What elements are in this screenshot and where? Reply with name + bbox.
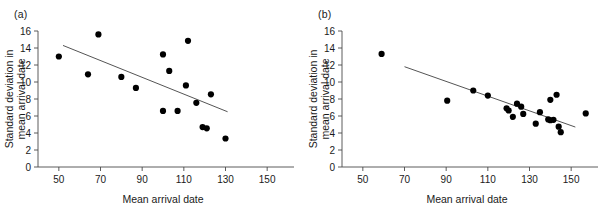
regression-line [63, 45, 228, 111]
data-point [518, 104, 524, 110]
data-point [444, 98, 450, 104]
data-point [520, 111, 526, 117]
y-tick-label: 14 [20, 43, 32, 54]
y-tick-label: 0 [25, 162, 31, 173]
data-point [118, 74, 124, 80]
data-point [160, 108, 166, 114]
data-point [95, 31, 101, 37]
data-point [470, 87, 476, 93]
data-point [183, 82, 189, 88]
x-axis-title: Mean arrival date [426, 193, 507, 205]
x-tick-label: 70 [95, 174, 107, 185]
data-point [208, 91, 214, 97]
x-tick-label: 90 [441, 174, 453, 185]
y-tick-label: 16 [324, 26, 336, 37]
figure-container: (a) 5070901101301500246810121416Mean arr… [0, 0, 609, 213]
y-axis-title-line2: mean arrival date [319, 58, 331, 139]
x-tick-label: 70 [399, 174, 411, 185]
y-tick-label: 2 [25, 145, 31, 156]
x-tick-label: 150 [259, 174, 276, 185]
x-tick-label: 150 [563, 174, 580, 185]
x-tick-label: 110 [480, 174, 496, 185]
x-tick-label: 50 [357, 174, 369, 185]
data-point [133, 85, 139, 91]
data-point [193, 100, 199, 106]
x-axis-title: Mean arrival date [122, 193, 203, 205]
data-point [506, 107, 512, 113]
data-point [533, 121, 539, 127]
data-point [378, 51, 384, 57]
y-axis-title-line1: Standard deviation in [3, 50, 15, 149]
panel-a-plot: 5070901101301500246810121416Mean arrival… [0, 0, 304, 213]
data-point [160, 51, 166, 57]
data-point [174, 108, 180, 114]
panel-a: (a) 5070901101301500246810121416Mean arr… [0, 0, 304, 213]
y-tick-label: 14 [324, 43, 336, 54]
data-point [537, 109, 543, 115]
data-point [204, 125, 210, 131]
data-point [583, 110, 589, 116]
data-point [85, 71, 91, 77]
x-tick-label: 110 [176, 174, 192, 185]
y-tick-label: 0 [329, 162, 335, 173]
data-point [166, 68, 172, 74]
x-tick-label: 130 [217, 174, 234, 185]
y-tick-label: 2 [329, 145, 335, 156]
x-tick-label: 130 [521, 174, 538, 185]
y-tick-label: 16 [20, 26, 32, 37]
data-point [550, 117, 556, 123]
panel-b-plot: 5070901101301500246810121416Mean arrival… [304, 0, 608, 213]
y-axis-title-line1: Standard deviation in [307, 50, 319, 149]
data-point [558, 129, 564, 135]
y-axis-title-line2: mean arrival date [15, 58, 27, 139]
data-point [485, 93, 491, 99]
data-point [222, 135, 228, 141]
x-tick-label: 90 [137, 174, 149, 185]
data-point [547, 97, 553, 103]
data-point [510, 114, 516, 120]
data-point [185, 38, 191, 44]
data-point [556, 124, 562, 130]
x-tick-label: 50 [53, 174, 65, 185]
data-point [553, 92, 559, 98]
data-point [56, 53, 62, 59]
panel-b: (b) 5070901101301500246810121416Mean arr… [304, 0, 608, 213]
